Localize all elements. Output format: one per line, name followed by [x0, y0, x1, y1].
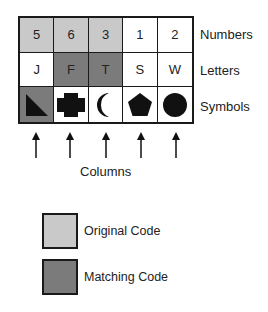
- legend-swatch-matching: [42, 259, 78, 295]
- cell-number-2: 6: [54, 18, 88, 53]
- row-label-symbols: Symbols: [200, 99, 250, 114]
- cell-number-1: 5: [20, 18, 54, 53]
- cell-number-3: 3: [89, 18, 123, 53]
- cell-symbol-2: [54, 87, 88, 122]
- crescent-icon: [92, 91, 118, 119]
- columns-label: Columns: [80, 164, 131, 179]
- arrow-up-icon: [136, 132, 146, 158]
- cell-symbol-4: [123, 87, 157, 122]
- arrow-up-icon: [101, 132, 111, 158]
- cell-symbol-1: [20, 87, 54, 122]
- arrow-up-icon: [31, 132, 41, 158]
- arrow-up-icon: [171, 132, 181, 158]
- circle-icon: [161, 91, 189, 119]
- cell-number-4: 1: [123, 18, 157, 53]
- cell-letter-4: S: [123, 53, 157, 88]
- triangle-icon: [23, 91, 51, 119]
- pentagon-icon: [126, 91, 154, 119]
- cell-letter-5: W: [158, 53, 192, 88]
- cell-symbol-5: [158, 87, 192, 122]
- cell-number-5: 2: [158, 18, 192, 53]
- legend-swatch-original: [42, 213, 78, 249]
- code-grid: 5 6 3 1 2 J F T S W: [18, 16, 194, 124]
- cell-letter-2: F: [54, 53, 88, 88]
- cell-letter-3: T: [89, 53, 123, 88]
- cell-symbol-3: [89, 87, 123, 122]
- arrow-up-icon: [65, 132, 75, 158]
- row-label-letters: Letters: [200, 63, 240, 78]
- legend-label-original: Original Code: [84, 224, 160, 238]
- legend-label-matching: Matching Code: [84, 270, 168, 284]
- cell-letter-1: J: [20, 53, 54, 88]
- row-label-numbers: Numbers: [200, 27, 253, 42]
- cross-icon: [56, 92, 86, 118]
